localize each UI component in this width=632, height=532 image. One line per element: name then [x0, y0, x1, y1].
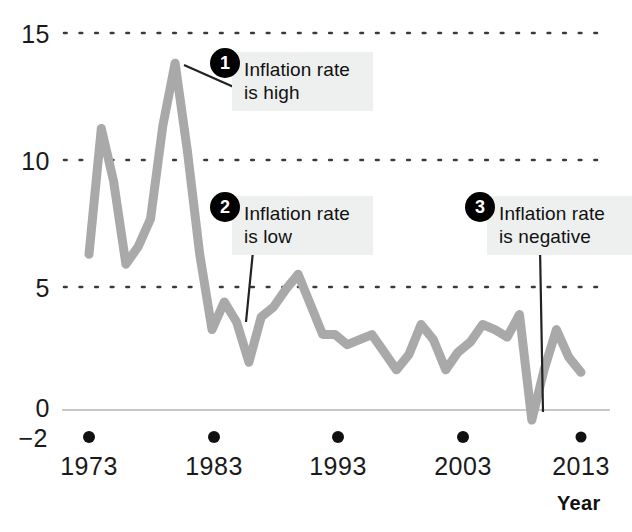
callout-2-box: Inflation rateis low — [232, 196, 373, 255]
x-tick-label-1993: 1993 — [293, 452, 383, 481]
callout-2-line1: Inflation rate — [244, 203, 350, 224]
y-tick-label-minus-2: −2 — [0, 424, 48, 453]
callout-1-line1: Inflation rate — [244, 59, 350, 80]
callout-3-line1: Inflation rate — [499, 203, 605, 224]
x-tick-dot-2013 — [576, 432, 587, 443]
x-axis-title: Year — [557, 492, 600, 515]
x-tick-dot-2003 — [457, 431, 469, 443]
x-tick-label-1973: 1973 — [44, 452, 134, 481]
x-tick-label-1983: 1983 — [169, 452, 259, 481]
x-axis-tick-dots — [83, 431, 587, 443]
y-tick-label-5: 5 — [0, 274, 50, 303]
callout-3-badge: 3 — [465, 192, 495, 222]
callout-1-line2: is high — [244, 82, 300, 103]
callout-1-badge: 1 — [210, 48, 240, 78]
x-tick-dot-1993 — [332, 431, 344, 443]
x-tick-label-2013: 2013 — [536, 452, 626, 481]
callout-3-box: Inflation rateis negative — [487, 196, 632, 255]
y-tick-label-10: 10 — [0, 147, 50, 176]
callout-2-badge: 2 — [210, 192, 240, 222]
y-tick-label-0: 0 — [0, 394, 50, 423]
callout-1-box: Inflation rateis high — [232, 52, 373, 111]
callout-3-line2: is negative — [499, 226, 591, 247]
x-tick-dot-1973 — [83, 431, 95, 443]
x-tick-dot-1983 — [208, 431, 220, 443]
y-tick-label-15: 15 — [0, 20, 50, 49]
callout-2-line2: is low — [244, 226, 292, 247]
x-tick-label-2003: 2003 — [418, 452, 508, 481]
